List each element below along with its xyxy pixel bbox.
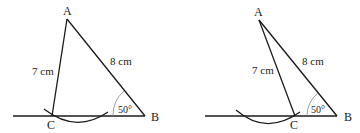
point-label-C: C [47, 118, 55, 132]
side-AB [67, 19, 145, 116]
angle-label-B: 50° [118, 104, 132, 115]
point-label-C: C [290, 118, 298, 132]
figure-left: A B C 7 cm 8 cm 50° [13, 4, 159, 132]
point-label-B: B [344, 110, 352, 124]
side-label-AC: 7 cm [32, 65, 54, 77]
ambiguous-triangle-diagram: A B C 7 cm 8 cm 50° A B C 7 cm 8 cm 50° [0, 0, 360, 133]
figure-right: A B C 7 cm 8 cm 50° [205, 5, 352, 132]
point-label-A: A [254, 5, 263, 19]
side-label-AC: 7 cm [252, 64, 274, 76]
side-label-AB: 8 cm [110, 55, 132, 67]
angle-label-B: 50° [311, 104, 325, 115]
side-label-AB: 8 cm [302, 55, 324, 67]
point-label-B: B [151, 110, 159, 124]
side-AC [52, 19, 67, 116]
point-label-A: A [63, 4, 72, 18]
